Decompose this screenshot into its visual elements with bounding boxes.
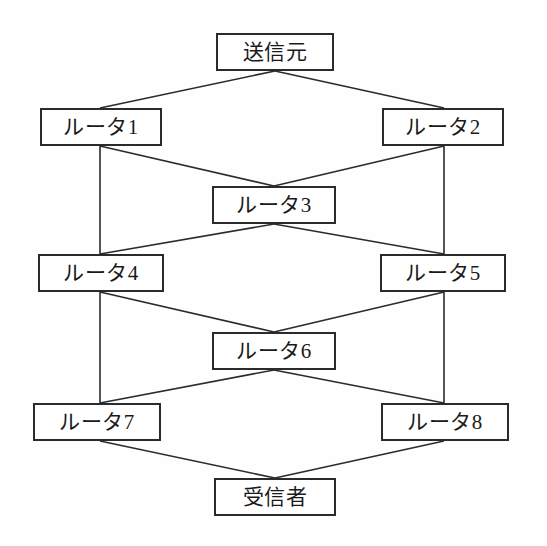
node-label-router3: ルータ3	[236, 195, 312, 216]
node-router2[interactable]: ルータ2	[382, 108, 504, 146]
node-source[interactable]: 送信元	[216, 33, 334, 71]
edge-source-router1	[100, 71, 275, 108]
edge-router3-router5	[274, 224, 444, 254]
node-receiver[interactable]: 受信者	[214, 478, 336, 516]
edge-router6-router8	[274, 370, 444, 403]
node-label-router2: ルータ2	[405, 117, 481, 138]
edge-router7-receiver	[100, 441, 275, 478]
node-router4[interactable]: ルータ4	[38, 254, 164, 292]
edge-router5-router6	[274, 292, 444, 332]
node-label-router4: ルータ4	[63, 263, 139, 284]
node-label-source: 送信元	[243, 42, 308, 63]
edge-source-router2	[275, 71, 444, 108]
node-router1[interactable]: ルータ1	[40, 108, 162, 146]
node-label-router1: ルータ1	[63, 117, 139, 138]
node-router8[interactable]: ルータ8	[381, 403, 509, 441]
edge-router2-router3	[274, 146, 444, 186]
node-router3[interactable]: ルータ3	[212, 186, 336, 224]
edge-router6-router7	[100, 370, 274, 403]
node-router6[interactable]: ルータ6	[212, 332, 336, 370]
node-label-router8: ルータ8	[407, 412, 483, 433]
edge-router1-router3	[100, 146, 274, 186]
edge-router3-router4	[100, 224, 274, 254]
node-label-router5: ルータ5	[405, 263, 481, 284]
edge-router4-router6	[100, 292, 274, 332]
node-label-receiver: 受信者	[243, 487, 308, 508]
node-router7[interactable]: ルータ7	[33, 403, 161, 441]
network-topology-diagram: 送信元ルータ1ルータ2ルータ3ルータ4ルータ5ルータ6ルータ7ルータ8受信者	[0, 0, 547, 546]
node-label-router6: ルータ6	[236, 341, 312, 362]
node-label-router7: ルータ7	[59, 412, 135, 433]
edge-router8-receiver	[275, 441, 444, 478]
node-router5[interactable]: ルータ5	[380, 254, 506, 292]
